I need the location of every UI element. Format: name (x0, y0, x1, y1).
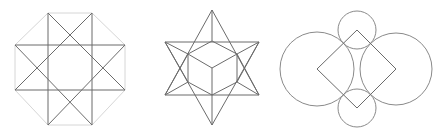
star-line (48, 13, 125, 90)
geometry-diagram (0, 0, 443, 134)
diamond (317, 30, 396, 108)
edge-line (212, 82, 237, 95)
star-of-david-cube-figure (165, 10, 259, 125)
star-line (15, 45, 92, 125)
star-line (15, 13, 92, 90)
edge-line (212, 54, 237, 68)
circles-diamond-figure (280, 11, 432, 127)
edge-line (188, 54, 212, 68)
octagram-figure (15, 13, 125, 125)
octagon-outline (15, 13, 125, 125)
star-line (48, 45, 125, 125)
